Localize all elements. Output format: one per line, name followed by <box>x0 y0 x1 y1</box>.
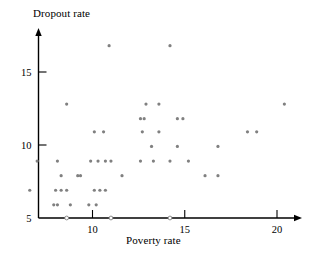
data-point <box>246 130 249 133</box>
data-point <box>56 203 59 206</box>
data-point <box>181 117 184 120</box>
data-point <box>255 130 258 133</box>
data-point <box>93 130 96 133</box>
data-point <box>95 203 98 206</box>
data-point <box>144 103 147 106</box>
data-point <box>139 159 142 162</box>
y-tick-label: 5 <box>26 213 31 224</box>
data-point <box>56 159 59 162</box>
y-tick-label: 10 <box>21 140 32 151</box>
data-point <box>152 159 155 162</box>
data-point <box>143 117 146 120</box>
data-point <box>150 145 153 148</box>
data-point <box>168 159 171 162</box>
axes-group <box>35 28 302 221</box>
data-point <box>93 189 96 192</box>
data-point <box>76 174 79 177</box>
data-point <box>176 145 179 148</box>
data-point <box>216 145 219 148</box>
x-tick-label: 10 <box>87 224 98 235</box>
data-point <box>60 189 63 192</box>
data-point <box>69 203 72 206</box>
data-points-group <box>28 44 286 220</box>
scatter-plot-figure: Dropout rate 51015101520 Poverty rate <box>0 0 316 254</box>
data-point <box>65 216 69 220</box>
data-point <box>54 189 57 192</box>
data-point <box>65 189 68 192</box>
data-point <box>28 189 31 192</box>
data-point <box>120 174 123 177</box>
data-point <box>139 117 142 120</box>
data-point <box>36 159 39 162</box>
data-point <box>104 189 107 192</box>
data-point <box>283 103 286 106</box>
ticks-group <box>39 72 278 218</box>
data-point <box>96 159 99 162</box>
data-point <box>102 130 105 133</box>
data-point <box>203 174 206 177</box>
x-axis-title: Poverty rate <box>126 234 181 246</box>
data-point <box>187 159 190 162</box>
data-point <box>79 174 82 177</box>
data-point <box>87 203 90 206</box>
x-tick-label: 20 <box>272 224 283 235</box>
data-point <box>157 130 160 133</box>
data-point <box>176 117 179 120</box>
data-point <box>104 159 107 162</box>
data-point <box>157 103 160 106</box>
x-axis-arrow <box>294 215 302 221</box>
data-point <box>89 159 92 162</box>
data-point <box>109 159 112 162</box>
data-point <box>108 44 111 47</box>
data-point <box>216 174 219 177</box>
data-point <box>98 189 101 192</box>
x-tick-label: 15 <box>180 224 191 235</box>
data-point <box>168 216 172 220</box>
data-point <box>141 130 144 133</box>
data-point <box>65 103 68 106</box>
plot-canvas: 51015101520 <box>0 0 316 254</box>
data-point <box>168 44 171 47</box>
data-point <box>60 174 63 177</box>
data-point <box>109 216 113 220</box>
y-tick-label: 15 <box>21 67 32 78</box>
data-point <box>52 203 55 206</box>
y-axis-arrow <box>35 28 41 36</box>
tick-labels-group: 51015101520 <box>21 67 282 235</box>
